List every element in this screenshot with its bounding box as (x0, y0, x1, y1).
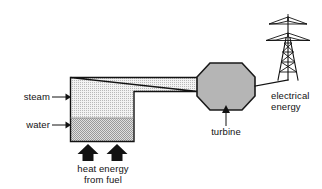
pylon-crossarm-upper (288, 17, 307, 24)
boiler-assembly (71, 78, 199, 142)
pylon-crossarm-lower (288, 33, 310, 41)
pylon-brace-x1b (281, 62, 297, 72)
heat-arrow-1 (78, 144, 99, 161)
label-steam: steam (24, 91, 50, 102)
heat-energy-arrows (78, 144, 128, 161)
diagram-canvas: steam water turbine heat energy from fue… (0, 0, 322, 189)
power-station-diagram: steam water turbine heat energy from fue… (0, 0, 322, 189)
pylon-brace-x1a (280, 62, 296, 72)
turbine-assembly (197, 63, 255, 126)
label-electrical-line2: energy (271, 101, 301, 112)
heat-arrow-2 (107, 144, 128, 161)
callout-leaders (52, 92, 71, 130)
label-turbine: turbine (211, 126, 241, 137)
label-heat-energy-line2: from fuel (84, 174, 122, 185)
pylon-crossarm-upper-mirror (269, 17, 288, 24)
steam-pipe (134, 78, 198, 92)
label-water: water (25, 119, 50, 130)
electricity-pylon (266, 14, 310, 80)
label-electrical-line1: electrical (271, 90, 310, 101)
pylon-crossarm-lower-mirror (266, 33, 288, 41)
boiler-water-region (71, 118, 134, 142)
turbine-body (197, 63, 255, 110)
label-heat-energy-line1: heat energy (77, 163, 128, 174)
power-line (255, 80, 288, 86)
